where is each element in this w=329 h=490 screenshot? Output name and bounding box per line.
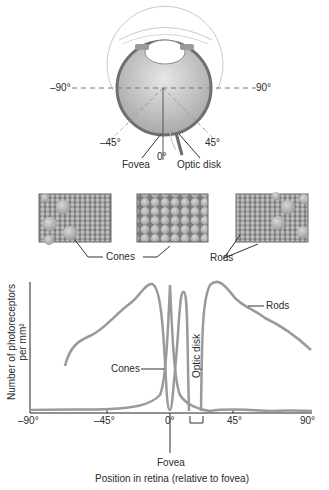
- chart-label-optic-disk: Optic disk: [191, 334, 202, 378]
- x-tick-90: 90°: [300, 416, 315, 426]
- x-tick-45: 45°: [227, 416, 242, 426]
- chart-label-rods: Rods: [266, 301, 289, 311]
- eye-label-zero: 0°: [157, 152, 167, 162]
- eye-label-fovea: Fovea: [122, 160, 150, 170]
- eye-label-pos90: 90°: [256, 83, 271, 93]
- x-tick-neg45: –45°: [94, 416, 115, 426]
- eye-label-neg90: –90°: [50, 83, 71, 93]
- chart-label-cones: Cones: [111, 364, 140, 374]
- chart-y-axis-label: Number of photoreceptors per mm²: [6, 272, 28, 412]
- x-tick-0: 0°: [165, 416, 175, 426]
- chart-label-fovea: Fovea: [157, 458, 185, 468]
- foveal-patch: [137, 194, 208, 242]
- eye-label-pos45: 45°: [205, 138, 220, 148]
- rods-curve-right: [201, 282, 311, 411]
- x-tick-neg90: –90°: [18, 416, 39, 426]
- patch-label-cones: Cones: [106, 252, 135, 262]
- peripheral-left-patch: [39, 194, 111, 245]
- patch-label-rods: Rods: [210, 253, 233, 263]
- eye-label-optic-disk: Optic disk: [177, 160, 221, 170]
- peripheral-right-patch: [236, 192, 309, 242]
- chart-x-axis-label: Position in retina (relative to fovea): [95, 474, 249, 484]
- eye-label-neg45: –45°: [100, 138, 121, 148]
